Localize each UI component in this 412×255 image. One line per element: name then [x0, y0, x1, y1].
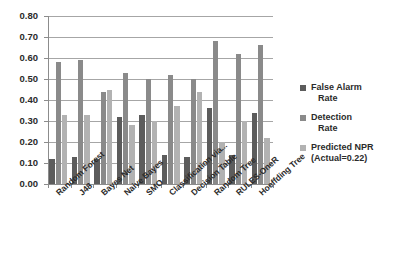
y-tick-label: 0.20 [0, 136, 44, 147]
x-tick-mark [48, 184, 49, 188]
bar-group [49, 16, 67, 184]
legend-label: Detection [311, 112, 410, 123]
legend-label: Predicted NPR [311, 142, 410, 153]
legend-swatch-icon [300, 85, 306, 91]
y-tick-label: 0.50 [0, 73, 44, 84]
bar-group [117, 16, 135, 184]
legend-item: False AlarmRate [300, 82, 410, 103]
bar [168, 75, 173, 184]
y-tick-label: 0.30 [0, 115, 44, 126]
bar [56, 62, 61, 184]
bar-chart: 0.800.700.600.500.400.300.200.100.00 Ran… [0, 0, 412, 255]
bar [62, 115, 67, 184]
y-tick-label: 0.00 [0, 178, 44, 189]
legend-label-line2: Rate [311, 123, 410, 134]
bar [107, 90, 112, 185]
legend-label: False Alarm [311, 82, 410, 93]
chart-legend: False AlarmRateDetectionRatePredicted NP… [300, 82, 410, 172]
legend-item: Predicted NPR(Actual=0.22) [300, 142, 410, 163]
legend-swatch-icon [300, 115, 306, 121]
legend-swatch-icon [300, 145, 306, 151]
legend-label-line2: Rate [311, 93, 410, 104]
y-tick-label: 0.80 [0, 10, 44, 21]
legend-item: DetectionRate [300, 112, 410, 133]
y-tick-label: 0.40 [0, 94, 44, 105]
bar-group [162, 16, 180, 184]
y-tick-label: 0.10 [0, 157, 44, 168]
bar [101, 92, 106, 184]
y-tick-label: 0.70 [0, 31, 44, 42]
bar [174, 106, 179, 184]
legend-label-line2: (Actual=0.22) [311, 153, 410, 164]
y-tick-label: 0.60 [0, 52, 44, 63]
bar [162, 155, 167, 184]
bar [49, 159, 54, 184]
